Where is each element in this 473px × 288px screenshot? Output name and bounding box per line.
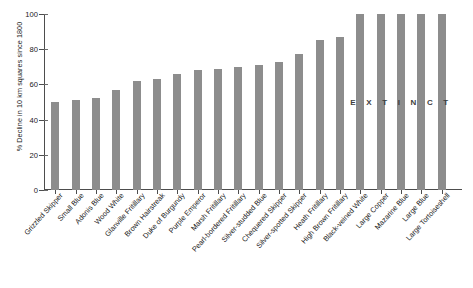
bar: [133, 81, 141, 190]
bar: [336, 37, 344, 190]
bar: [234, 67, 242, 190]
y-tick-label: 40: [30, 115, 38, 124]
bar-slot: [167, 14, 187, 190]
x-axis-labels: Grizzled SkipperSmall BlueAdonis BlueWoo…: [44, 191, 462, 286]
bar: [316, 40, 324, 190]
bar-slot: [106, 14, 126, 190]
y-tick-label: 80: [30, 45, 38, 54]
bar-slot: [45, 14, 65, 190]
figure-caption: [0, 278, 473, 288]
bar: [51, 102, 59, 190]
bar-slot: [289, 14, 309, 190]
bar: [72, 100, 80, 190]
bar-chart-figure: % Decline in 10 km squares since 1800 02…: [0, 0, 473, 288]
bar-slot: [208, 14, 228, 190]
y-tick-label: 100: [25, 10, 38, 19]
bar: [275, 62, 283, 190]
extinct-annotation: E X T I N C T: [350, 98, 451, 107]
bar-slot: [65, 14, 85, 190]
bar: [112, 90, 120, 190]
bar-slot: [126, 14, 146, 190]
bar-slot: [269, 14, 289, 190]
bar: [295, 54, 303, 190]
y-tick-label: 60: [30, 80, 38, 89]
bar-slot: [330, 14, 350, 190]
y-tick-label: 0: [34, 186, 38, 195]
bar: [255, 65, 263, 190]
y-tick-label: 20: [30, 150, 38, 159]
bar-slot: [228, 14, 248, 190]
bar: [173, 74, 181, 190]
bar-slot: [187, 14, 207, 190]
plot-area: 020406080100 E X T I N C T: [44, 14, 462, 190]
y-axis-title: % Decline in 10 km squares since 1800: [15, 0, 24, 182]
bar-slot: [309, 14, 329, 190]
bar-slot: [86, 14, 106, 190]
bar: [194, 70, 202, 190]
bar-slot: [147, 14, 167, 190]
bar: [92, 98, 100, 190]
bar: [214, 69, 222, 190]
bar-slot: [248, 14, 268, 190]
bar: [153, 79, 161, 190]
